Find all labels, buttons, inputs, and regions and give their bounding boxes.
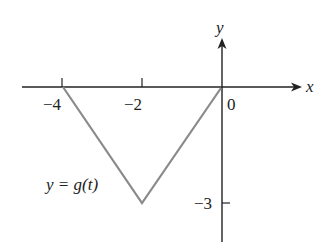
y-axis: y −3 xyxy=(194,18,230,242)
x-axis: x −4 −2 0 xyxy=(22,77,314,114)
curve-label-text: y = g(t) xyxy=(44,175,98,194)
y-tick-label-neg3: −3 xyxy=(194,194,212,213)
x-tick-label-neg2: −2 xyxy=(124,95,142,114)
x-tick-label-neg4: −4 xyxy=(43,95,62,114)
y-axis-label: y xyxy=(214,18,224,37)
graph-of-g: x −4 −2 0 y −3 y = g(t) xyxy=(0,0,327,248)
origin-label: 0 xyxy=(227,95,236,114)
x-axis-label: x xyxy=(305,77,314,96)
curve-label: y = g(t) xyxy=(44,175,98,194)
